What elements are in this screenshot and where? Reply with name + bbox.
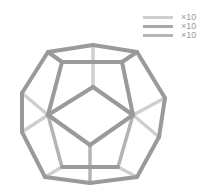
- legend-item: ×10: [141, 31, 211, 40]
- edge-line: [22, 115, 48, 132]
- edge-line: [22, 52, 48, 93]
- edge-line: [137, 52, 165, 98]
- edge-line: [48, 52, 62, 62]
- edge-line: [90, 177, 137, 183]
- edge-line: [137, 137, 159, 177]
- legend-label: ×10: [181, 30, 196, 40]
- edge-line: [93, 45, 137, 52]
- legend-swatch-dark: [143, 25, 173, 28]
- legend-swatch-mid: [143, 34, 173, 37]
- edge-line: [22, 132, 45, 177]
- edge-line: [48, 45, 93, 52]
- edge-line: [22, 93, 48, 115]
- edge-line: [122, 52, 137, 62]
- legend-item: ×10: [141, 22, 211, 31]
- legend-swatch-light: [143, 16, 173, 19]
- legend: ×10 ×10 ×10: [141, 13, 211, 40]
- edge-line: [133, 115, 159, 137]
- edge-line: [133, 98, 165, 115]
- legend-item: ×10: [141, 13, 211, 22]
- edge-line: [45, 177, 90, 183]
- edge-line: [159, 98, 165, 137]
